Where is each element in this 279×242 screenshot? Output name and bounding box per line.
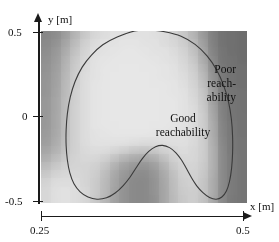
poor-reachability-line3: ability — [207, 90, 236, 104]
y-axis-title: y [m] — [48, 14, 72, 25]
x-tick-mark-left — [41, 211, 42, 221]
reachability-figure: Good reachability Poor reach- ability y … — [0, 0, 279, 242]
y-tick-label-mid: 0 — [22, 111, 28, 122]
y-axis-line — [38, 20, 40, 204]
y-tick-label-upper: 0.5 — [8, 27, 22, 38]
x-tick-label-left: 0.25 — [30, 225, 49, 236]
plot-area: Good reachability Poor reach- ability — [41, 31, 247, 203]
poor-reachability-label: Poor reach- ability — [207, 62, 236, 104]
poor-reachability-line1: Poor — [207, 62, 236, 76]
x-axis-title: x [m] — [250, 201, 274, 212]
y-tick-label-lower: -0.5 — [5, 196, 22, 207]
y-axis-arrow-icon — [34, 13, 42, 22]
x-tick-label-right: 0.5 — [236, 225, 250, 236]
y-tick-mark-upper — [33, 32, 43, 33]
poor-reachability-line2: reach- — [207, 76, 236, 90]
x-tick-mark-right — [243, 211, 244, 221]
x-axis-line — [41, 216, 246, 217]
good-reachability-line1: Good — [138, 111, 228, 125]
good-reachability-line2: reachability — [138, 125, 228, 139]
y-tick-mark-mid — [33, 116, 43, 117]
y-tick-mark-lower — [33, 201, 43, 202]
good-reachability-label: Good reachability — [138, 111, 228, 139]
